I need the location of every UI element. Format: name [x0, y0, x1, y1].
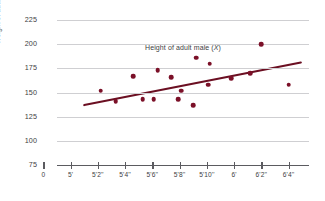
x-tick-mark [207, 162, 208, 169]
x-tick-mark [152, 162, 153, 169]
gridline [57, 141, 309, 142]
data-point [229, 76, 234, 81]
x-tick-label: 5'2'' [92, 171, 104, 178]
data-point [206, 82, 211, 87]
data-point [207, 61, 212, 66]
x-tick-label: 6'4'' [283, 171, 295, 178]
x-tick-mark [261, 162, 262, 169]
data-point [113, 99, 118, 104]
x-tick-mark [98, 162, 99, 169]
x-tick-mark [125, 162, 126, 169]
x-tick-label: 0 [42, 171, 46, 178]
x-tick-label: 5'10'' [199, 171, 214, 178]
y-tick-label: 225 [11, 16, 37, 23]
gridline [57, 117, 309, 118]
y-tick-label: 200 [11, 40, 37, 47]
data-point [169, 75, 174, 80]
scatter-chart: Weight of adult male (Y) Height of adult… [0, 0, 325, 201]
data-point [98, 88, 103, 93]
y-tick-label: 150 [11, 89, 37, 96]
data-point [151, 97, 156, 102]
y-axis-title: Weight of adult male (Y) [0, 0, 1, 44]
data-point [176, 97, 181, 102]
gridline [57, 68, 309, 69]
plot-area: Height of adult male (X) 225200175150125… [57, 20, 309, 165]
x-tick-label: 5'8'' [174, 171, 186, 178]
y-tick-label: 175 [11, 64, 37, 71]
data-point [194, 55, 199, 60]
data-point [131, 74, 136, 79]
data-point [191, 103, 196, 108]
gridline [57, 20, 309, 21]
x-tick-mark [234, 162, 235, 169]
data-point [156, 68, 161, 73]
x-axis-line [57, 165, 309, 166]
x-tick-label: 5'4'' [119, 171, 131, 178]
x-tick-label: 6'2'' [256, 171, 268, 178]
y-axis-title-text: Weight of adult male ( [0, 0, 1, 44]
x-tick-label: 5' [68, 171, 73, 178]
x-tick-label: 6' [232, 171, 237, 178]
x-tick-mark [71, 162, 72, 169]
x-tick-mark [180, 162, 181, 169]
data-point [179, 88, 184, 93]
gridline [57, 93, 309, 94]
data-point [259, 42, 264, 47]
y-tick-label: 100 [11, 137, 37, 144]
data-point [248, 71, 253, 76]
x-tick-label: 5'6'' [147, 171, 159, 178]
y-tick-label: 75 [11, 161, 37, 168]
data-point [141, 97, 146, 102]
x-tick-mark [43, 162, 44, 169]
data-point [286, 82, 291, 87]
y-tick-label: 125 [11, 113, 37, 120]
gridline [57, 44, 309, 45]
x-tick-mark [289, 162, 290, 169]
